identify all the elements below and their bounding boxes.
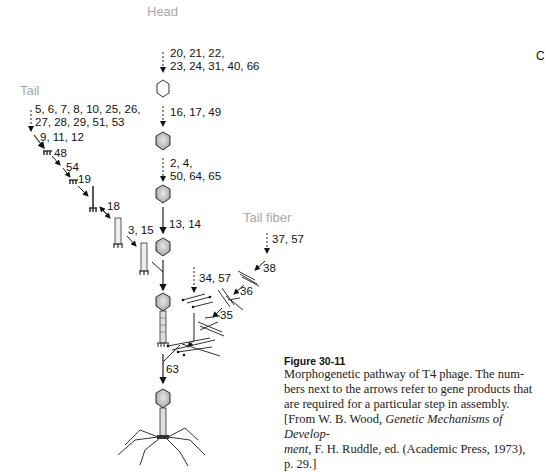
tail-gene-label-5: 19 [78,173,91,186]
tail-gene-label-1: 5, 6, 7, 8, 10, 25, 26, 27, 28, 29, 51, … [35,103,141,129]
caption-line-6: p. 29.] [284,457,541,472]
tail-gene-label-4: 54 [66,161,79,174]
caption-line-2: bers next to the arrows refer to gene pr… [284,382,541,397]
head-gene-label-3b: 50, 64, 65 [170,170,221,183]
caption-citation-title-b: ment, [284,442,311,456]
head-label: Head [147,4,178,19]
tail-gene-label-7: 3, 15 [128,224,154,237]
tail-gene-label-6: 18 [107,200,120,213]
head-gene-label-3: 2, 4, 50, 64, 65 [170,157,221,183]
caption-citation-author: [From W. B. Wood, [284,412,385,426]
caption-line-1: Morphogenetic pathway of T4 phage. The n… [284,367,541,382]
head-gene-label-3a: 2, 4, [170,157,221,170]
caption-line-3: are required for a particular step in as… [284,397,541,412]
caption-text: Morphogenetic pathway of T4 phage. The n… [284,367,541,472]
head-gene-label-2: 16, 17, 49 [170,106,221,119]
caption-line-4: [From W. B. Wood, Genetic Mechanisms of … [284,412,541,442]
figure-caption: Figure 30-11 Morphogenetic pathway of T4… [284,355,541,472]
fiber-gene-label-1: 37, 57 [272,233,304,246]
figure-number: Figure 30-11 [284,355,541,367]
head-gene-label-1a: 20, 21, 22, [170,47,260,60]
fiber-gene-label-3: 36 [240,285,253,298]
tail-fiber-label: Tail fiber [243,210,291,225]
head-gene-label-4: 13, 14 [169,218,201,231]
tail-gene-label-1a: 5, 6, 7, 8, 10, 25, 26, [35,103,141,116]
tail-label: Tail [20,83,40,98]
head-gene-label-1b: 23, 24, 31, 40, 66 [170,60,260,73]
head-gene-label-1: 20, 21, 22, 23, 24, 31, 40, 66 [170,47,260,73]
fiber-gene-label-2: 38 [263,262,276,275]
caption-citation-publisher: F. H. Ruddle, ed. (Academic Press, 1973)… [311,442,525,456]
final-gene-label: 63 [166,363,179,376]
tail-gene-label-3: 48 [54,147,67,160]
tail-gene-label-2: 9, 11, 12 [40,131,84,144]
fiber-gene-label-5: 34, 57 [199,272,231,285]
fiber-gene-label-4: 35 [220,309,233,322]
edge-partial-text: C [536,50,545,63]
caption-line-5: ment, F. H. Ruddle, ed. (Academic Press,… [284,442,541,457]
tail-gene-label-1b: 27, 28, 29, 51, 53 [35,116,141,129]
